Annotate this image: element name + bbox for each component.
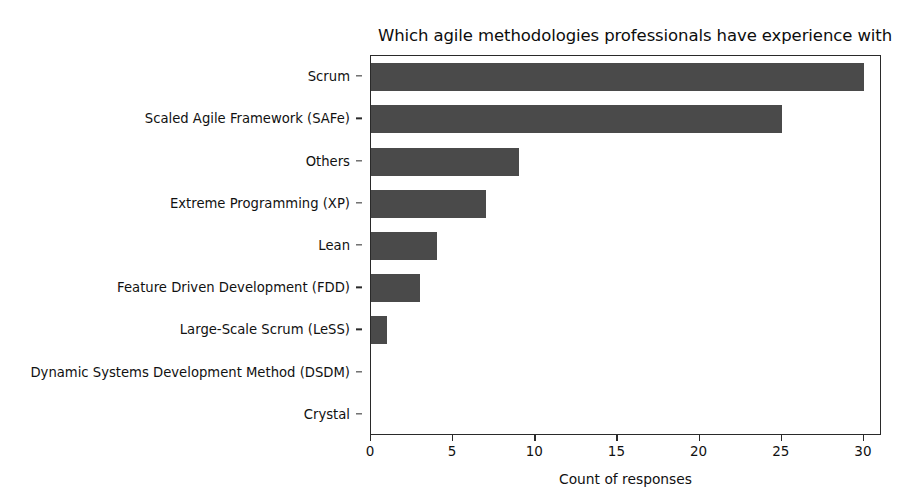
x-axis-tick-label: 20 [690, 443, 707, 459]
bar [371, 274, 420, 302]
x-axis-tick-label: 0 [366, 443, 375, 459]
y-axis-tick-mark [356, 371, 362, 372]
bar [371, 148, 519, 176]
x-axis-tick-label: 25 [772, 443, 789, 459]
x-axis-tick-label: 15 [608, 443, 625, 459]
y-axis-tick-mark [356, 75, 362, 76]
bar [371, 232, 437, 260]
x-axis-tick-mark [370, 435, 371, 441]
plot-area [370, 55, 881, 435]
bar-row [371, 98, 782, 140]
x-axis-tick-mark [452, 435, 453, 441]
y-axis-tick-label: Extreme Programming (XP) [0, 195, 350, 210]
y-axis-tick-mark [356, 202, 362, 203]
x-axis-tick-mark [863, 435, 864, 441]
x-axis-tick-label: 10 [526, 443, 543, 459]
y-axis-tick-label: Feature Driven Development (FDD) [0, 280, 350, 295]
bar-row [371, 309, 387, 351]
y-axis-tick-mark [356, 329, 362, 330]
y-axis-tick-mark [356, 160, 362, 161]
y-axis-tick-label: Others [0, 153, 350, 168]
bar [371, 63, 864, 91]
y-axis-tick-label: Scaled Agile Framework (SAFe) [0, 111, 350, 126]
bar-row [371, 267, 420, 309]
y-axis-tick-label: Large-Scale Scrum (LeSS) [0, 322, 350, 337]
y-axis-tick-label: Crystal [0, 406, 350, 421]
bar [371, 190, 486, 218]
x-axis-tick-label: 30 [854, 443, 871, 459]
bar-row [371, 56, 864, 98]
chart-figure: Which agile methodologies professionals … [0, 0, 914, 504]
x-axis-tick-mark [616, 435, 617, 441]
y-axis-tick-mark [356, 413, 362, 414]
y-axis-tick-label: Dynamic Systems Development Method (DSDM… [0, 364, 350, 379]
bar-row [371, 183, 486, 225]
y-axis-tick-label: Lean [0, 238, 350, 253]
y-axis-tick-mark [356, 244, 362, 245]
y-axis-tick-labels: ScrumScaled Agile Framework (SAFe)Others… [0, 55, 362, 435]
x-axis-tick-mark [781, 435, 782, 441]
x-axis-tick-label: 5 [448, 443, 457, 459]
x-axis-label: Count of responses [370, 471, 881, 487]
chart-title: Which agile methodologies professionals … [355, 26, 914, 45]
y-axis-tick-mark [356, 287, 362, 288]
bar [371, 316, 387, 344]
bars-layer [371, 56, 880, 434]
bar [371, 105, 782, 133]
x-axis-ticks: 051015202530 [370, 435, 881, 475]
y-axis-tick-mark [356, 118, 362, 119]
x-axis-tick-mark [534, 435, 535, 441]
bar-row [371, 140, 519, 182]
bar-row [371, 225, 437, 267]
x-axis-tick-mark [699, 435, 700, 441]
y-axis-tick-label: Scrum [0, 69, 350, 84]
